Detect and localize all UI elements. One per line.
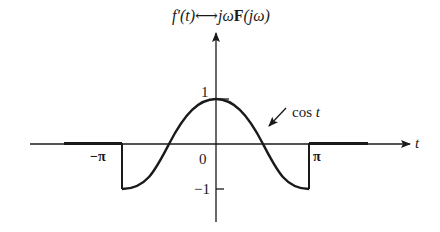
title-lhs: f′(t) (172, 7, 195, 24)
x-tick-label-minus-pi: −π (90, 150, 106, 164)
cos-annotation-arrow (269, 108, 286, 126)
y-tick-label-minus-one: −1 (194, 182, 210, 197)
origin-label: 0 (199, 152, 207, 167)
title-rhs-F: F (234, 7, 244, 24)
x-axis-label: t (415, 136, 419, 151)
curve-label: cos t (292, 105, 320, 120)
title-rhs-suffix: (jω) (244, 7, 270, 24)
x-tick-label-pi: π (313, 150, 321, 164)
plot-canvas (0, 0, 440, 232)
curve-label-func: cos (292, 104, 316, 120)
figure-title: f′(t)⟷jωF(jω) (172, 8, 270, 24)
y-tick-label-one: 1 (201, 85, 209, 100)
derivative-diagram: f′(t)⟷jωF(jω) 1 0 −1 −π π t cos t (0, 0, 440, 232)
title-rhs-prefix: jω (218, 7, 234, 24)
title-pair-arrow: ⟷ (195, 7, 218, 24)
curve-label-var: t (316, 104, 320, 120)
